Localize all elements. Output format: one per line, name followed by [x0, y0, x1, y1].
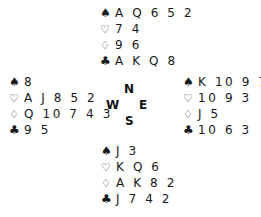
spade-icon: ♠: [100, 5, 115, 21]
south-hearts-row: ♡K Q 6: [101, 159, 177, 175]
south-hearts: K Q 6: [116, 160, 162, 174]
west-clubs-row: ♣9 5: [9, 122, 113, 138]
north-hand: ♠A Q 6 5 2 ♡7 4 ♢9 6 ♣A K Q 8: [100, 5, 194, 69]
east-clubs: 10 6 3: [198, 123, 252, 137]
diamond-icon: ♢: [100, 38, 115, 54]
west-diamonds-row: ♢Q 10 7 4 3: [9, 106, 113, 122]
spade-icon: ♠: [101, 143, 116, 159]
compass-east: E: [139, 98, 147, 112]
heart-icon: ♡: [101, 160, 116, 176]
diamond-icon: ♢: [9, 107, 24, 123]
club-icon: ♣: [101, 191, 116, 207]
compass-west: W: [106, 98, 119, 112]
diamond-icon: ♢: [101, 176, 116, 192]
north-clubs: A K Q 8: [115, 54, 178, 68]
east-diamonds-row: ♢J 5: [183, 106, 261, 122]
south-diamonds-row: ♢A K 8 2: [101, 175, 177, 191]
south-hand: ♠J 3 ♡K Q 6 ♢A K 8 2 ♣J 7 4 2: [101, 143, 177, 207]
north-spades: A Q 6 5 2: [115, 6, 194, 20]
west-spades: 8: [24, 75, 34, 89]
north-spades-row: ♠A Q 6 5 2: [100, 5, 194, 21]
diamond-icon: ♢: [183, 107, 198, 123]
north-diamonds: 9 6: [115, 38, 142, 52]
west-diamonds: Q 10 7 4 3: [24, 107, 113, 121]
spade-icon: ♠: [9, 74, 24, 90]
south-diamonds: A K 8 2: [116, 176, 177, 190]
east-hearts: 10 9 3: [198, 91, 252, 105]
north-diamonds-row: ♢9 6: [100, 37, 194, 53]
north-clubs-row: ♣A K Q 8: [100, 53, 194, 69]
west-hearts-row: ♡A J 8 5 2: [9, 90, 113, 106]
south-spades: J 3: [116, 144, 139, 158]
south-clubs-row: ♣J 7 4 2: [101, 191, 177, 207]
heart-icon: ♡: [183, 91, 198, 107]
east-spades-row: ♠K 10 9 7 4: [183, 74, 261, 90]
south-clubs: J 7 4 2: [116, 192, 172, 206]
west-clubs: 9 5: [24, 123, 51, 137]
club-icon: ♣: [100, 53, 115, 69]
east-hand: ♠K 10 9 7 4 ♡10 9 3 ♢J 5 ♣10 6 3: [183, 74, 261, 138]
east-diamonds: J 5: [198, 107, 221, 121]
heart-icon: ♡: [9, 91, 24, 107]
compass-north: N: [124, 82, 134, 96]
heart-icon: ♡: [100, 22, 115, 38]
club-icon: ♣: [9, 122, 24, 138]
east-clubs-row: ♣10 6 3: [183, 122, 261, 138]
club-icon: ♣: [183, 122, 198, 138]
north-hearts: 7 4: [115, 22, 142, 36]
east-hearts-row: ♡10 9 3: [183, 90, 261, 106]
spade-icon: ♠: [183, 74, 198, 90]
west-hand: ♠8 ♡A J 8 5 2 ♢Q 10 7 4 3 ♣9 5: [9, 74, 113, 138]
south-spades-row: ♠J 3: [101, 143, 177, 159]
north-hearts-row: ♡7 4: [100, 21, 194, 37]
west-hearts: A J 8 5 2: [24, 91, 97, 105]
compass-south: S: [125, 114, 134, 128]
west-spades-row: ♠8: [9, 74, 113, 90]
east-spades: K 10 9 7 4: [198, 75, 261, 89]
